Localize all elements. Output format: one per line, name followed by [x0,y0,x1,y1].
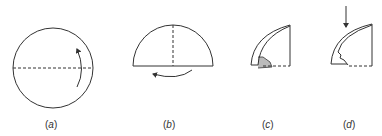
fold-arrow-icon [153,70,192,77]
panel-d: (d) [331,6,372,130]
panel-c-label: (c) [262,119,274,130]
notched-edge [338,52,348,65]
panel-c: (c) [251,25,290,130]
folding-diagram: (a) (b) (c) (d) [0,0,382,136]
panel-b: (b) [133,25,213,130]
inner-cone-edge [338,25,372,52]
panel-a-label: (a) [45,119,57,130]
outer-cone-shape [251,25,290,66]
panel-d-label: (d) [343,119,355,130]
panel-a: (a) [13,28,93,130]
outer-cone-shape [331,24,372,66]
panel-b-label: (b) [163,119,175,130]
